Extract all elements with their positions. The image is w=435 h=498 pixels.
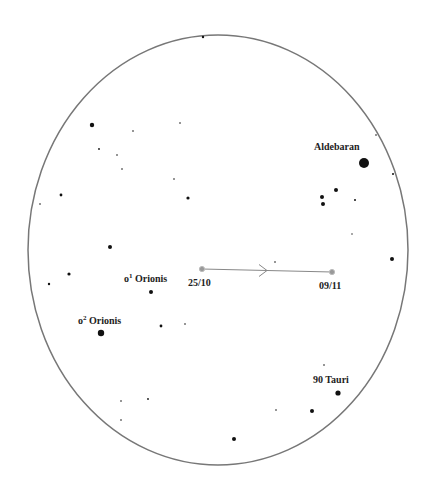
label-name: Orionis xyxy=(133,273,168,284)
star xyxy=(375,134,377,136)
star xyxy=(98,148,100,150)
star xyxy=(120,400,122,402)
star xyxy=(90,123,94,127)
star xyxy=(351,233,352,234)
star xyxy=(179,122,181,124)
star xyxy=(60,194,63,197)
star xyxy=(147,398,149,400)
star xyxy=(67,272,70,275)
star xyxy=(132,130,134,132)
star xyxy=(120,419,122,421)
star xyxy=(173,178,175,180)
star xyxy=(334,188,338,192)
star-chart xyxy=(0,0,435,498)
label-date-end: 09/11 xyxy=(319,280,341,291)
star xyxy=(359,158,369,168)
star xyxy=(121,168,123,170)
label-aldebaran: Aldebaran xyxy=(314,141,360,152)
label-90-tauri: 90 Tauri xyxy=(313,374,349,385)
star xyxy=(321,202,325,206)
star xyxy=(310,409,314,413)
label-date-start: 25/10 xyxy=(188,277,211,288)
star xyxy=(392,173,394,175)
star xyxy=(390,257,394,261)
star xyxy=(39,203,41,205)
star xyxy=(184,323,186,325)
star xyxy=(274,261,276,263)
track-start-marker xyxy=(199,266,204,271)
track-end-marker xyxy=(329,269,334,274)
field-of-view-circle xyxy=(28,35,408,465)
star xyxy=(98,330,104,336)
label-o1-orionis: o1 Orionis xyxy=(124,272,167,284)
comet-track xyxy=(199,265,334,277)
star xyxy=(275,409,277,411)
star xyxy=(149,290,153,294)
star xyxy=(354,199,356,201)
star xyxy=(160,325,163,328)
label-o2-orionis: o2 Orionis xyxy=(78,314,121,326)
label-name: Orionis xyxy=(87,315,122,326)
star xyxy=(323,364,325,366)
star xyxy=(186,196,189,199)
star xyxy=(202,36,204,38)
star xyxy=(320,195,324,199)
star xyxy=(335,390,340,395)
star xyxy=(116,154,118,156)
star xyxy=(48,283,50,285)
star xyxy=(108,245,112,249)
star xyxy=(232,437,236,441)
